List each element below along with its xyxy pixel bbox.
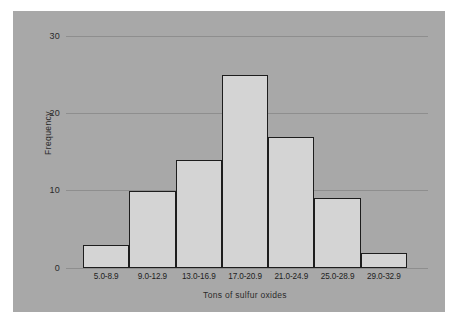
xtick-label-7: 29.0-32.9 [361, 272, 407, 281]
bar-bin-6 [314, 198, 360, 268]
xtick-label-4: 17.0-20.9 [222, 272, 268, 281]
x-axis-label: Tons of sulfur oxides [83, 290, 407, 300]
xtick-label-1: 5.0-8.9 [83, 272, 129, 281]
figure: 30 20 10 0 Frequency 5.0-8.9 9.0-12.9 13… [0, 0, 461, 326]
bar-bin-5 [268, 137, 314, 268]
ytick-label-30: 30 [34, 31, 60, 41]
bar-bin-4 [222, 75, 268, 268]
bar-bin-2 [129, 191, 175, 268]
gridline-0-baseline [66, 268, 428, 269]
bar-bin-7 [361, 253, 407, 268]
bar-group [83, 36, 407, 268]
xtick-label-3: 13.0-16.9 [176, 272, 222, 281]
ytick-label-0: 0 [34, 263, 60, 273]
bar-bin-1 [83, 245, 129, 268]
histogram-plot: 30 20 10 0 Frequency 5.0-8.9 9.0-12.9 13… [0, 0, 461, 326]
y-axis-label: Frequency [43, 103, 53, 163]
bar-bin-3 [176, 160, 222, 268]
xtick-label-2: 9.0-12.9 [129, 272, 175, 281]
ytick-label-10: 10 [34, 185, 60, 195]
xtick-label-5: 21.0-24.9 [268, 272, 314, 281]
xtick-label-6: 25.0-28.9 [314, 272, 360, 281]
